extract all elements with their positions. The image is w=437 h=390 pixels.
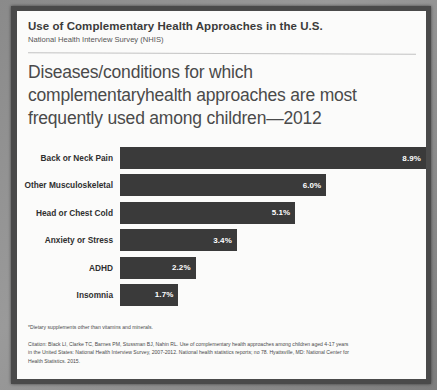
- bar: 8.9%: [120, 147, 426, 169]
- bar-track: 6.0%: [120, 174, 426, 196]
- bar-category-label: Back or Neck Pain: [17, 153, 120, 163]
- bar-row: Insomnia1.7%: [17, 284, 426, 306]
- bar-row: Anxiety or Stress3.4%: [17, 229, 426, 251]
- bar-value-label: 1.7%: [155, 290, 174, 299]
- bar-row: Back or Neck Pain8.9%: [17, 147, 426, 169]
- bar: 1.7%: [120, 284, 178, 306]
- bar-value-label: 6.0%: [303, 181, 322, 190]
- bar-track: 8.9%: [120, 147, 426, 169]
- bar-chart: Back or Neck Pain8.9%Other Musculoskelet…: [17, 147, 426, 315]
- header-title: Use of Complementary Health Approaches i…: [28, 20, 416, 32]
- bar-category-label: Other Musculoskeletal: [17, 180, 120, 190]
- bar-category-label: Anxiety or Stress: [17, 235, 120, 245]
- bar-row: Head or Chest Cold5.1%: [17, 202, 426, 224]
- bar-value-label: 3.4%: [213, 236, 232, 245]
- poster-header: Use of Complementary Health Approaches i…: [28, 20, 416, 44]
- header-subtitle: National Health Interview Survey (NHIS): [28, 35, 416, 44]
- header-divider: [28, 52, 416, 54]
- bar-value-label: 2.2%: [172, 263, 191, 272]
- bar-category-label: Head or Chest Cold: [17, 208, 120, 218]
- footnote-text: *Dietary supplements other than vitamins…: [28, 324, 408, 332]
- bar-track: 3.4%: [120, 229, 426, 251]
- bar: 2.2%: [120, 257, 196, 279]
- bar: 3.4%: [120, 229, 237, 251]
- bar-row: ADHD2.2%: [17, 257, 426, 279]
- bar: 6.0%: [120, 174, 326, 196]
- bar-category-label: Insomnia: [17, 290, 120, 300]
- bar-value-label: 8.9%: [402, 154, 421, 163]
- photo-background: Use of Complementary Health Approaches i…: [0, 0, 437, 390]
- bar: 5.1%: [120, 202, 295, 224]
- bar-value-label: 5.1%: [272, 208, 291, 217]
- bar-category-label: ADHD: [17, 263, 120, 273]
- bar-row: Other Musculoskeletal6.0%: [17, 174, 426, 196]
- poster-page: Use of Complementary Health Approaches i…: [17, 11, 426, 379]
- bar-track: 5.1%: [120, 202, 426, 224]
- bar-track: 2.2%: [120, 257, 426, 279]
- bar-track: 1.7%: [120, 284, 426, 306]
- chart-title: Diseases/conditions for which complement…: [28, 61, 418, 129]
- citation-text: Citation: Black LI, Clarke TC, Barnes PM…: [28, 340, 353, 365]
